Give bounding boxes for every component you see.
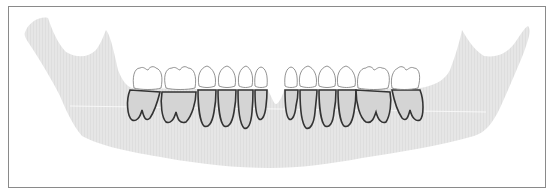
- tooth-left-molar-1: [161, 67, 196, 123]
- tooth-left-canine: [238, 66, 253, 128]
- tooth-right-canine: [299, 66, 317, 128]
- mandible-bone: [25, 18, 530, 168]
- tooth-left-incisor: [255, 67, 268, 119]
- tooth-right-premolar-2: [337, 66, 356, 126]
- mandible-illustration: [0, 0, 554, 195]
- tooth-left-premolar-1: [218, 66, 236, 126]
- tooth-left-premolar-2: [198, 66, 216, 126]
- tooth-right-premolar-1: [318, 66, 336, 126]
- tooth-right-molar-1: [356, 67, 391, 123]
